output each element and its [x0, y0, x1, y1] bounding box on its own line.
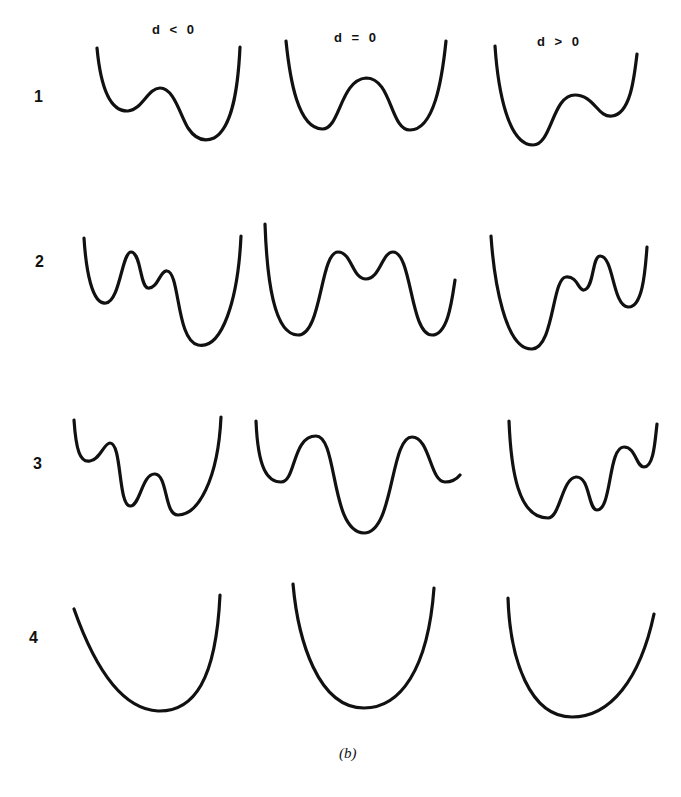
- curve-row3-d-negative: [74, 417, 221, 515]
- curve-row2-d-positive: [491, 236, 647, 349]
- curve-row2-d-negative: [84, 236, 241, 345]
- curve-row1-d-positive: [495, 46, 637, 145]
- curve-row3-d-positive: [509, 421, 657, 518]
- curve-row3-d-zero: [256, 421, 460, 533]
- curve-row4-d-negative: [74, 595, 220, 711]
- curve-row4-d-zero: [293, 584, 434, 708]
- figure-caption: (b): [339, 745, 357, 762]
- curve-row1-d-zero: [286, 41, 446, 130]
- curve-row2-d-zero: [265, 224, 455, 335]
- curve-row4-d-positive: [508, 598, 654, 717]
- potential-curves-diagram: [0, 0, 681, 797]
- curve-row1-d-negative: [97, 47, 240, 140]
